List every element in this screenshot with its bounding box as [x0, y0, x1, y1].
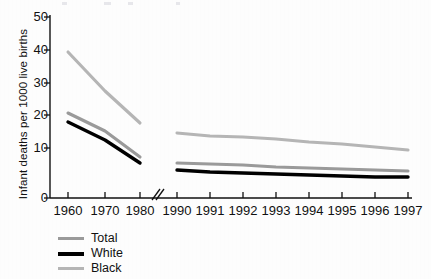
- chart-legend: Total White Black: [58, 231, 123, 276]
- y-axis-ticks: [44, 17, 50, 198]
- series-line-total: [177, 163, 408, 171]
- series-line-black: [68, 52, 140, 123]
- legend-label-total: Total: [91, 231, 117, 246]
- legend-swatch-total: [58, 237, 84, 240]
- legend-item-white: White: [58, 246, 123, 261]
- infant-mortality-chart: Infant deaths per 1000 live births 50 40…: [0, 0, 431, 279]
- series-line-black: [177, 133, 408, 150]
- legend-item-total: Total: [58, 231, 123, 246]
- series-line-total: [68, 113, 140, 157]
- legend-swatch-white: [58, 252, 84, 256]
- legend-label-black: Black: [91, 261, 122, 276]
- legend-swatch-black: [58, 267, 84, 270]
- series-line-white: [68, 122, 140, 163]
- legend-item-black: Black: [58, 261, 123, 276]
- legend-label-white: White: [91, 246, 123, 261]
- x-axis-ticks: [68, 192, 408, 198]
